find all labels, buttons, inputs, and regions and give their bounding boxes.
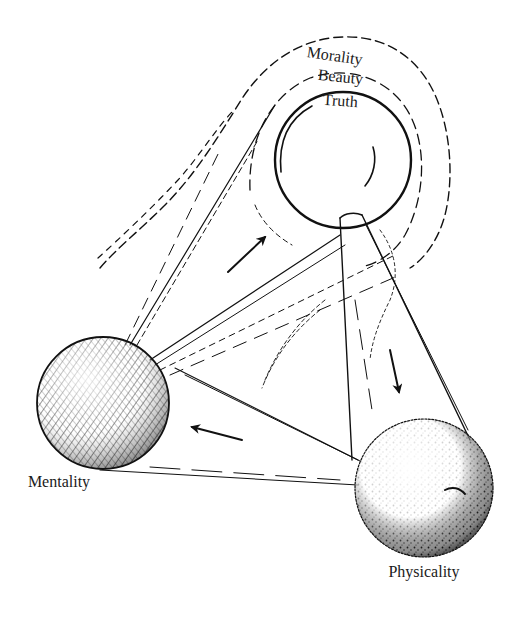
truth-label: Truth xyxy=(322,91,358,110)
arrow-truth-to-physicality-icon xyxy=(390,350,399,392)
morality-halo xyxy=(98,37,450,268)
diagram-canvas: Morality Beauty Truth Mentality Physical… xyxy=(0,0,521,617)
morality-label: Morality xyxy=(306,43,364,69)
physicality-sphere xyxy=(355,419,493,557)
arrow-physicality-to-mentality-icon xyxy=(192,427,242,440)
truth-sphere xyxy=(275,92,411,228)
halo-fuzz xyxy=(262,230,395,388)
beauty-label: Beauty xyxy=(317,66,364,89)
mentality-sphere xyxy=(37,337,169,469)
mentality-label: Mentality xyxy=(28,473,90,491)
arrow-mentality-to-truth-icon xyxy=(228,237,265,272)
physicality-label: Physicality xyxy=(388,563,459,581)
